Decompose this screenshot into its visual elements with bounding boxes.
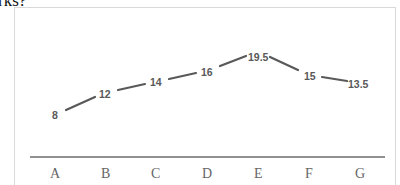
segment-d-e	[220, 56, 246, 66]
x-tick-label: B	[101, 166, 110, 181]
segment-b-c	[118, 84, 145, 90]
x-tick-label: F	[305, 166, 313, 181]
x-tick-label: C	[151, 166, 160, 181]
segment-e-f	[270, 57, 298, 70]
x-tick-label: D	[202, 166, 212, 181]
data-label: 12	[99, 88, 111, 100]
x-tick-label: A	[50, 166, 61, 181]
data-label: 16	[201, 66, 213, 78]
line-chart: 8 12 14 16 19.5 15 13.5 A B C D E F G	[0, 0, 400, 185]
data-label: 14	[150, 76, 162, 88]
data-label: 13.5	[348, 78, 369, 90]
data-label: 8	[52, 109, 58, 121]
segment-c-d	[169, 73, 196, 79]
segment-a-b	[66, 97, 95, 110]
x-tick-label: G	[355, 166, 365, 181]
data-label: 15	[304, 70, 316, 82]
segment-f-g	[322, 77, 347, 81]
data-labels: 8 12 14 16 19.5 15 13.5	[52, 51, 369, 121]
data-label: 19.5	[248, 51, 269, 63]
line-series	[66, 56, 347, 110]
x-tick-label: E	[254, 166, 263, 181]
x-axis-labels: A B C D E F G	[50, 166, 365, 181]
